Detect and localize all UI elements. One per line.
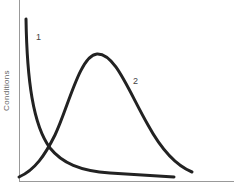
curve-2 (19, 54, 192, 177)
curve-1 (26, 19, 174, 177)
y-axis-label: Conditions (2, 61, 11, 121)
curve-2-label: 2 (133, 76, 138, 86)
chart: Conditions 1 2 (0, 0, 234, 189)
curve-1-label: 1 (36, 32, 41, 42)
plot-area (0, 0, 234, 189)
